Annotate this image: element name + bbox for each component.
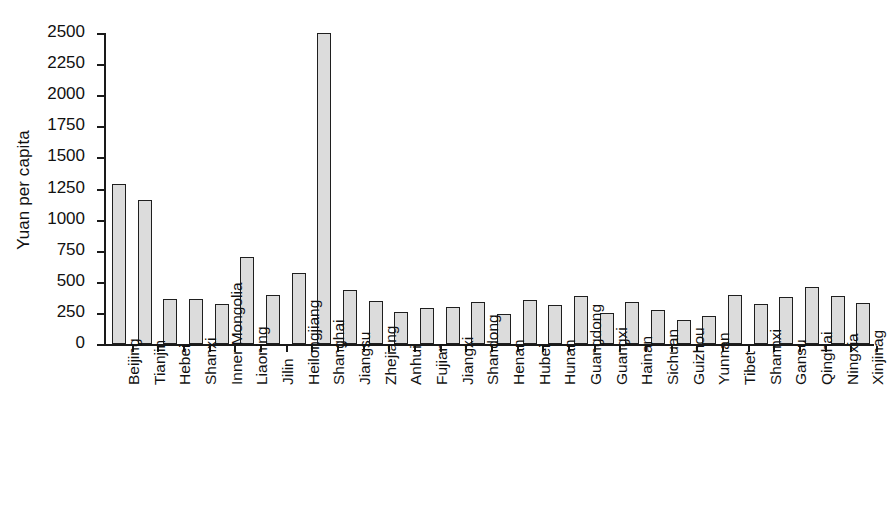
y-axis-tick: 2500 bbox=[97, 33, 104, 35]
y-axis-tick-label: 2250 bbox=[35, 53, 85, 73]
y-axis-tick: 1500 bbox=[97, 157, 104, 159]
bar bbox=[317, 33, 331, 344]
x-axis-label: Ningxia bbox=[844, 333, 862, 385]
y-axis-tick-label: 500 bbox=[35, 271, 85, 291]
y-axis-line bbox=[104, 33, 106, 346]
y-axis-tick-label: 2000 bbox=[35, 84, 85, 104]
y-axis-tick-label: 2500 bbox=[35, 22, 85, 42]
x-axis-label: Hunan bbox=[561, 339, 579, 385]
y-axis-tick-label: 0 bbox=[35, 333, 85, 353]
x-axis-label: Shanxi bbox=[202, 338, 220, 385]
bar-chart-figure: Yuan per capita 025050075010001250150017… bbox=[0, 0, 889, 510]
x-axis-label: Guangdong bbox=[587, 304, 605, 385]
x-axis-label: Tianjin bbox=[151, 340, 169, 385]
y-axis-tick: 1250 bbox=[97, 189, 104, 191]
x-axis-label: Gansu bbox=[792, 339, 810, 385]
bar bbox=[163, 299, 177, 344]
bar bbox=[548, 305, 562, 344]
bar bbox=[112, 184, 126, 344]
x-axis-label: Hainan bbox=[638, 336, 656, 385]
x-axis-label: Zhejiang bbox=[382, 326, 400, 385]
x-axis-label: Yunnan bbox=[715, 332, 733, 385]
x-axis-label: Shanghai bbox=[330, 319, 348, 385]
y-axis-tick: 2000 bbox=[97, 95, 104, 97]
x-axis-label: Jiangxi bbox=[459, 337, 477, 385]
x-axis-label: Hubei bbox=[536, 345, 554, 386]
x-axis-label: Guangxi bbox=[613, 327, 631, 385]
bar bbox=[574, 296, 588, 344]
y-axis-tick: 1000 bbox=[97, 220, 104, 222]
y-axis-tick: 1750 bbox=[97, 126, 104, 128]
x-axis-label: Beijing bbox=[125, 338, 143, 385]
y-axis-tick: 0 bbox=[97, 344, 104, 346]
x-axis-label: Heilongjiang bbox=[305, 300, 323, 385]
y-axis-tick-label: 1000 bbox=[35, 209, 85, 229]
x-axis-label: Henan bbox=[510, 339, 528, 385]
x-axis-label: Fujian bbox=[433, 343, 451, 385]
x-axis-label: Shandong bbox=[484, 314, 502, 385]
y-axis-tick-label: 1500 bbox=[35, 146, 85, 166]
bar bbox=[523, 300, 537, 344]
x-axis-label: Tibet bbox=[741, 351, 759, 385]
x-axis-label: Shannxi bbox=[767, 329, 785, 385]
x-axis-label: Inner Mongolia bbox=[228, 282, 246, 385]
y-axis-tick-label: 1750 bbox=[35, 115, 85, 135]
x-axis-label: Sichuan bbox=[664, 329, 682, 385]
x-axis-label: Qinghai bbox=[818, 332, 836, 385]
bar bbox=[754, 304, 768, 344]
bar bbox=[446, 307, 460, 344]
x-axis-label: Anhui bbox=[407, 345, 425, 385]
y-axis-tick-label: 1250 bbox=[35, 178, 85, 198]
y-axis-tick-label: 750 bbox=[35, 240, 85, 260]
y-axis-tick: 500 bbox=[97, 282, 104, 284]
bar bbox=[292, 273, 306, 344]
bar bbox=[189, 299, 203, 344]
bar bbox=[420, 308, 434, 344]
plot-area: 02505007501000125015001750200022502500 B… bbox=[104, 33, 874, 346]
y-axis-tick: 250 bbox=[97, 313, 104, 315]
x-axis-label: Jilin bbox=[279, 358, 297, 385]
x-axis-label: Hebei bbox=[176, 345, 194, 386]
x-axis-label: Xinjinag bbox=[869, 330, 887, 385]
bar bbox=[138, 200, 152, 344]
x-axis-label: Jiangsu bbox=[356, 332, 374, 385]
y-axis-tick-label: 250 bbox=[35, 302, 85, 322]
x-axis-label: Liaoning bbox=[253, 326, 271, 385]
x-axis-tick bbox=[286, 346, 288, 352]
bar bbox=[805, 287, 819, 344]
y-axis-tick: 2250 bbox=[97, 64, 104, 66]
y-axis-tick: 750 bbox=[97, 251, 104, 253]
x-axis-label: Guizhou bbox=[690, 327, 708, 385]
